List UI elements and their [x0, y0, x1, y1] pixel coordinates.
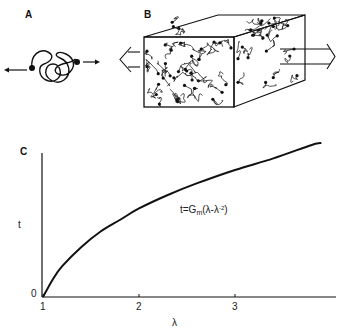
network-crosslink [236, 57, 239, 60]
network-crosslink [162, 76, 165, 79]
arrow-right-icon [83, 60, 100, 65]
panel-c-label: C [20, 146, 27, 157]
x-tick-label-2: 2 [136, 301, 142, 312]
network-crosslink [261, 36, 264, 39]
eq-end: ) [224, 204, 227, 215]
open-arrow-left-icon [120, 47, 140, 72]
network-crosslink [179, 42, 182, 45]
network-crosslink [191, 78, 194, 81]
network-crosslink [272, 25, 275, 28]
network-strand [191, 56, 198, 66]
network-crosslink [241, 45, 244, 48]
x-axis-title: λ [172, 317, 177, 328]
panel-b-network-block [120, 15, 335, 107]
y-axis-title: t [18, 219, 21, 230]
network-crosslink [169, 74, 172, 77]
arrow-left-icon [4, 68, 27, 73]
x-tick-label-1: 1 [40, 301, 46, 312]
network-crosslink [155, 93, 158, 96]
network-crosslink [193, 87, 196, 90]
network-crosslink [267, 21, 270, 24]
equation-annotation: t=Gm(λ-λ-2) [180, 204, 228, 216]
network-crosslink [172, 76, 175, 79]
network-crosslink [257, 28, 260, 31]
stress-strain-chart: 123 0 t λ t=Gm(λ-λ-2) [18, 143, 336, 328]
network-crosslink [164, 43, 167, 46]
network-crosslink [220, 91, 223, 94]
network-crosslink [252, 33, 255, 36]
polymer-chain [32, 51, 77, 82]
network-crosslink [197, 58, 200, 61]
panel-a-chain [4, 51, 100, 82]
network-crosslink [158, 102, 161, 105]
network-strand [210, 85, 222, 92]
network-crosslink [266, 33, 269, 36]
network-crosslink [229, 46, 232, 49]
network-crosslink [260, 19, 263, 22]
network-crosslink [145, 50, 148, 53]
network-crosslink [177, 70, 180, 73]
block-side-face [234, 15, 305, 107]
network-crosslink [170, 49, 173, 52]
eq-lhs: t=G [180, 204, 197, 215]
network-strand [165, 42, 178, 47]
network-crosslink [177, 27, 180, 30]
network-crosslink [171, 21, 174, 24]
network-crosslink [288, 54, 291, 57]
network-crosslink [265, 49, 268, 52]
network-strand [174, 72, 188, 81]
network-crosslink [246, 56, 249, 59]
network-strand [146, 59, 158, 73]
network-crosslink [236, 81, 239, 84]
network-crosslink [295, 74, 298, 77]
network-crosslink [157, 83, 160, 86]
network-crosslink [145, 65, 148, 68]
network-crosslink [286, 24, 289, 27]
network-crosslink [190, 55, 193, 58]
network-strand [283, 49, 294, 54]
network-crosslink [212, 41, 215, 44]
network-crosslink [157, 72, 160, 75]
network-crosslink [185, 69, 188, 72]
network-crosslink [175, 99, 178, 102]
x-tick-label-3: 3 [232, 301, 238, 312]
network-strand [213, 99, 223, 105]
network-crosslink [272, 76, 275, 79]
network-strand [237, 41, 241, 58]
network-crosslink [211, 98, 214, 101]
network-strand [173, 94, 186, 103]
crosslink-node-left [29, 65, 35, 71]
panel-a-label: A [25, 9, 32, 20]
panel-b-label: B [144, 9, 151, 20]
network-crosslink [264, 81, 267, 84]
network-crosslink [276, 34, 279, 37]
network-crosslink [218, 41, 221, 44]
crosslink-node-right [74, 59, 80, 65]
network-crosslink [273, 16, 276, 19]
network-strand [145, 51, 152, 59]
network-crosslink [189, 72, 192, 75]
network-crosslink [172, 25, 175, 28]
series-line-stress-strain [43, 143, 321, 297]
network-crosslink [249, 28, 252, 31]
network-crosslink [164, 62, 167, 65]
network-strand [218, 72, 227, 85]
network-crosslink [183, 84, 186, 87]
network-crosslink [224, 83, 227, 86]
network-crosslink [200, 47, 203, 50]
y-tick-label-0: 0 [31, 288, 37, 299]
eq-mid: (λ-λ [202, 204, 219, 215]
figure: A B C 123 [0, 0, 346, 335]
